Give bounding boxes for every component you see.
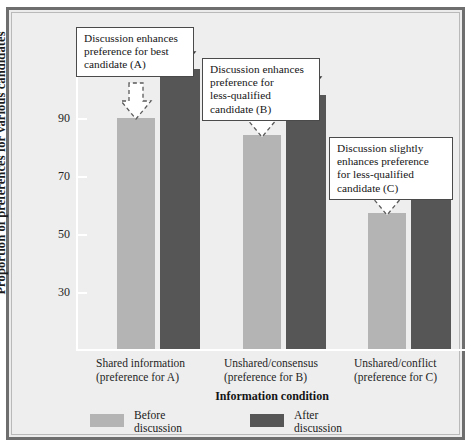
figure-frame-inner: Proportion of preferences for various ca… [11, 12, 460, 435]
x-category-label-1-line2: (preference for B) [224, 371, 318, 385]
y-tick-label-70: 70 [44, 170, 70, 182]
y-tick-label-50: 50 [44, 228, 70, 240]
chart-figure: Proportion of preferences for various ca… [0, 0, 471, 447]
x-category-label-1-line1: Unshared/consensus [224, 357, 318, 371]
x-category-label-2-line2: (preference for C) [354, 371, 437, 385]
arrow-dashed-a [121, 83, 151, 119]
callout-discussion-enhances-best-candidate: Discussion enhances preference for best … [76, 27, 194, 77]
callout-discussion-enhances-less-qualified-b: Discussion enhances preference for less-… [202, 58, 320, 121]
callout-b-line-1: Discussion enhances [210, 63, 313, 76]
callout-discussion-slightly-enhances-less-qualified-c: Discussion slightly enhances preference … [329, 137, 453, 200]
x-category-label-0-line2: (preference for A) [96, 371, 185, 385]
x-category-label-2: Unshared/conflict (preference for C) [354, 357, 437, 384]
legend-swatch-before [90, 414, 124, 427]
legend-label-after: After discussion [294, 409, 342, 435]
legend-label-after-line2: discussion [294, 422, 342, 435]
callout-a-line-1: Discussion enhances [84, 32, 187, 45]
y-tick-label-30: 30 [44, 286, 70, 298]
callout-a-line-2: preference for best [84, 45, 187, 58]
legend-label-before-line1: Before [134, 409, 182, 422]
y-axis-title: Proportion of preferences for various ca… [0, 31, 9, 294]
x-category-label-1: Unshared/consensus (preference for B) [224, 357, 318, 384]
callout-c-line-3: for less-qualified [337, 168, 446, 181]
legend-label-before-line2: discussion [134, 422, 182, 435]
callout-c-line-1: Discussion slightly [337, 142, 446, 155]
callout-a-line-3: candidate (A) [84, 58, 187, 71]
x-category-label-2-line1: Unshared/conflict [354, 357, 437, 371]
legend-label-before: Before discussion [134, 409, 182, 435]
x-axis-title: Information condition [76, 389, 468, 404]
legend-label-after-line1: After [294, 409, 342, 422]
callout-b-line-3: less-qualified [210, 89, 313, 102]
callout-c-line-4: candidate (C) [337, 182, 446, 195]
x-category-label-0-line1: Shared information [96, 357, 185, 371]
legend-swatch-after [250, 414, 284, 427]
callout-c-line-2: enhances preference [337, 155, 446, 168]
figure-frame: Proportion of preferences for various ca… [6, 7, 465, 440]
callout-b-line-4: candidate (B) [210, 103, 313, 116]
x-category-label-0: Shared information (preference for A) [96, 357, 185, 384]
callout-b-line-2: preference for [210, 76, 313, 89]
y-tick-label-90: 90 [44, 112, 70, 124]
